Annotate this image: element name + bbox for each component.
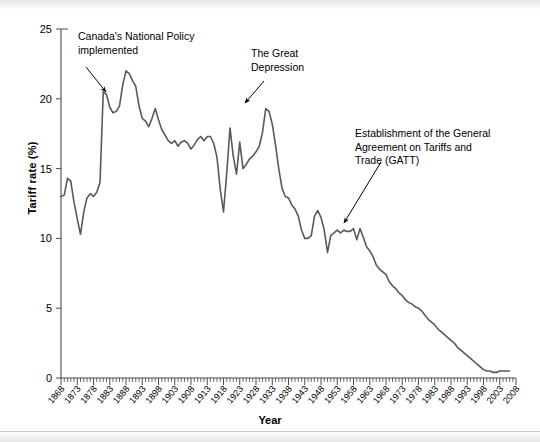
x-tick-label: 1943: [290, 384, 311, 406]
x-tick-label: 1913: [192, 384, 213, 406]
series-line-0: [61, 71, 510, 373]
x-tick-label: 1888: [111, 384, 132, 406]
x-tick-label: 2003: [485, 384, 506, 406]
annotation-arrow-gatt: [344, 162, 381, 223]
x-tick-label: 1968: [371, 384, 392, 406]
annotation-text-national-policy: Canada's National Policyimplemented: [78, 30, 195, 56]
y-axis-title: Tariff rate (%): [26, 118, 38, 238]
x-tick-label: 1928: [241, 384, 262, 406]
y-tick-label: 15: [40, 163, 52, 175]
x-tick-label: 1933: [257, 384, 278, 406]
annotation-arrow-national-policy: [86, 67, 106, 92]
y-tick-label: 10: [40, 232, 52, 244]
x-tick-label: 1918: [208, 384, 229, 406]
x-tick-label: 1973: [387, 384, 408, 406]
x-tick-label: 1983: [420, 384, 441, 406]
y-tick-label: 0: [46, 372, 52, 384]
annotation-gatt: Establishment of the GeneralAgreement on…: [344, 127, 490, 223]
x-tick-label: 1953: [322, 384, 343, 406]
y-tick-label: 25: [40, 23, 52, 35]
annotation-arrow-great-depression: [245, 81, 264, 103]
annotation-great-depression: The GreatDepression: [245, 47, 304, 103]
tariff-rate-line-chart: 0510152025 18681873187818831888189318981…: [0, 0, 540, 442]
annotation-national-policy: Canada's National Policyimplemented: [78, 30, 195, 92]
y-axis: 0510152025: [40, 23, 68, 384]
annotation-text-gatt: Establishment of the GeneralAgreement on…: [355, 127, 490, 166]
x-tick-label: 1963: [355, 384, 376, 406]
x-tick-label: 1883: [95, 384, 116, 406]
x-axis-title: Year: [0, 414, 540, 426]
x-tick-label: 1938: [273, 384, 294, 406]
x-tick-label: 1978: [403, 384, 424, 406]
x-axis: 1868187318781883188818931898190319081913…: [46, 378, 522, 406]
x-tick-label: 1998: [468, 384, 489, 406]
x-tick-label: 2008: [501, 384, 522, 406]
x-tick-label: 1908: [176, 384, 197, 406]
data-series-group: [61, 71, 510, 373]
x-tick-label: 1868: [46, 384, 67, 406]
chart-figure: 0510152025 18681873187818831888189318981…: [0, 0, 540, 442]
x-tick-label: 1923: [225, 384, 246, 406]
annotation-text-great-depression: The GreatDepression: [251, 47, 304, 73]
x-tick-label: 1898: [143, 384, 164, 406]
x-tick-label: 1993: [452, 384, 473, 406]
x-tick-label: 1958: [338, 384, 359, 406]
x-tick-label: 1988: [436, 384, 457, 406]
x-tick-label: 1873: [62, 384, 83, 406]
x-tick-label: 1878: [78, 384, 99, 406]
x-tick-label: 1948: [306, 384, 327, 406]
x-tick-label: 1893: [127, 384, 148, 406]
x-tick-label: 1903: [160, 384, 181, 406]
y-tick-label: 5: [46, 302, 52, 314]
y-tick-label: 20: [40, 93, 52, 105]
